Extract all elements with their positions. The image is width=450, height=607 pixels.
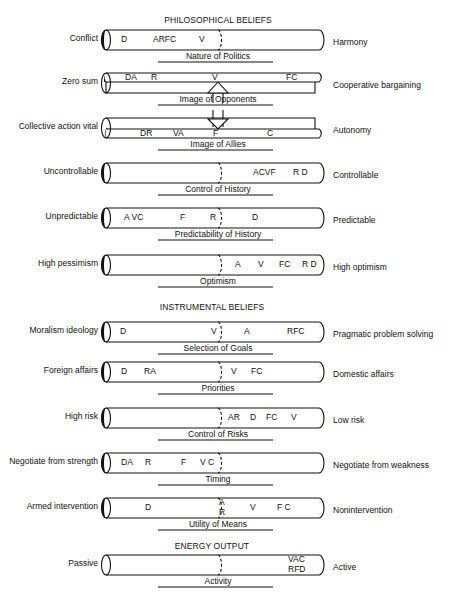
shade-icon <box>102 255 107 275</box>
leader-position-mark: FC <box>251 367 262 376</box>
dimension-label: Control of History <box>138 184 298 194</box>
right-pole-label: Domestic affairs <box>333 369 450 379</box>
leader-position-mark: R <box>151 73 157 82</box>
right-pole-label: Harmony <box>333 37 450 47</box>
leader-position-mark: R <box>145 458 151 467</box>
leader-position-mark: D <box>121 367 127 376</box>
leader-position-mark: FC <box>266 413 277 422</box>
dimension-label: Timing <box>138 474 298 484</box>
left-pole-label: Armed intervention <box>0 501 98 511</box>
leader-position-mark: DA <box>121 458 133 467</box>
dimension-label: Control of Risks <box>138 429 298 439</box>
dimension-label: Utility of Means <box>138 519 298 529</box>
leader-position-mark: F <box>180 213 185 222</box>
leader-position-mark: V C <box>200 458 214 467</box>
leader-position-mark: RFC <box>287 327 304 336</box>
right-pole-label: Nonintervention <box>333 505 450 515</box>
left-pole-label: Uncontrollable <box>0 166 98 176</box>
shade-icon <box>102 163 107 183</box>
leader-position-mark: R D <box>302 260 317 269</box>
leader-position-mark: FC <box>279 260 290 269</box>
left-pole-label: Moralism ideology <box>0 325 98 335</box>
leader-position-mark: C <box>267 129 273 138</box>
shade-icon <box>102 208 107 228</box>
leader-position-mark: A <box>244 327 250 336</box>
right-pole-label: Cooperative bargaining <box>333 80 450 90</box>
left-pole-label: Passive <box>0 558 98 568</box>
section-title-energy: ENERGY OUTPUT <box>112 541 312 551</box>
left-pole-label: High risk <box>0 411 98 421</box>
leader-position-mark: AR <box>228 413 240 422</box>
leader-position-mark: V <box>291 413 297 422</box>
left-pole-label: Unpredictable <box>0 211 98 221</box>
leader-position-mark: D <box>120 327 126 336</box>
leader-position-mark: A <box>235 260 241 269</box>
leader-position-mark: A VC <box>124 213 143 222</box>
shade-icon <box>102 408 107 428</box>
leader-position-mark: ARFC <box>153 35 176 44</box>
left-pole-label: High pessimism <box>0 258 98 268</box>
leader-position-mark: D <box>121 35 127 44</box>
leader-position-mark: VA <box>173 129 184 138</box>
leader-position-mark: RA <box>144 367 156 376</box>
leader-position-mark: V <box>231 367 237 376</box>
shade-icon <box>102 322 107 342</box>
right-pole-label: Active <box>333 562 450 572</box>
right-pole-label: Pragmatic problem solving <box>333 329 450 339</box>
section-title-instrumental: INSTRUMENTAL BELIEFS <box>112 302 312 312</box>
right-pole-label: Autonomy <box>333 125 450 135</box>
leader-position-mark: ACVF <box>253 168 276 177</box>
leader-position-mark: DA <box>125 73 137 82</box>
right-pole-label: Controllable <box>333 170 450 180</box>
leader-position-mark: F <box>181 458 186 467</box>
dimension-label: Predictability of History <box>138 229 298 239</box>
leader-position-mark: R <box>219 508 225 517</box>
left-pole-label: Conflict <box>0 33 98 43</box>
leader-position-mark: V <box>199 35 205 44</box>
left-pole-label: Zero sum <box>0 76 98 86</box>
leader-position-mark: F C <box>277 503 291 512</box>
shade-icon <box>102 362 107 382</box>
leader-position-mark: V <box>211 327 217 336</box>
leader-position-mark: F <box>213 129 218 138</box>
dimension-label: Image of Allies <box>138 139 298 149</box>
leader-position-mark: R D <box>293 168 308 177</box>
leader-position-mark: V <box>250 503 256 512</box>
leader-position-mark: D <box>145 503 151 512</box>
shade-icon <box>102 498 107 518</box>
leader-position-mark: D <box>252 213 258 222</box>
leader-position-mark: DR <box>140 129 152 138</box>
leader-position-mark: V <box>258 260 264 269</box>
dimension-label: Selection of Goals <box>138 343 298 353</box>
right-pole-label: Negotiate from weakness <box>333 460 450 470</box>
leader-position-mark: A <box>219 498 225 507</box>
shade-icon <box>102 30 107 50</box>
leader-position-mark: D <box>250 413 256 422</box>
left-pole-label: Negotiate from strength <box>0 456 98 466</box>
dimension-label: Priorities <box>138 383 298 393</box>
dimension-label: Nature of Politics <box>138 51 298 61</box>
left-pole-label: Foreign affairs <box>0 365 98 375</box>
left-pole-label: Collective action vital <box>0 121 98 131</box>
dimension-label: Image of Opponents <box>138 94 298 104</box>
shade-icon <box>102 453 107 473</box>
dimension-label: Activity <box>138 576 298 586</box>
right-pole-label: Predictable <box>333 215 450 225</box>
leader-position-mark: RFD <box>288 565 305 574</box>
shade-icon <box>105 128 108 138</box>
leader-position-mark: FC <box>286 73 297 82</box>
leader-position-mark: R <box>210 213 216 222</box>
dimension-label: Optimism <box>138 276 298 286</box>
right-pole-label: Low risk <box>333 415 450 425</box>
shade-icon <box>104 73 108 83</box>
leader-position-mark: VAC <box>288 555 305 564</box>
section-title-philosophical: PHILOSOPHICAL BELIEFS <box>118 15 318 25</box>
right-pole-label: High optimism <box>333 262 450 272</box>
leader-position-mark: V <box>212 73 218 82</box>
